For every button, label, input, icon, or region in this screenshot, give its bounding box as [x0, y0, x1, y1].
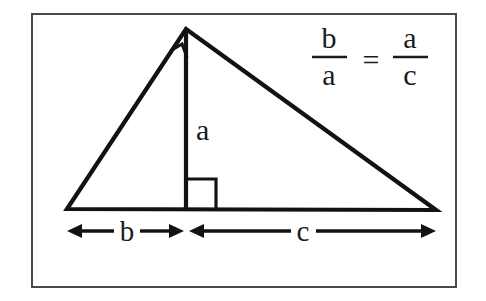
geometry-diagram: a b c b a = a c	[0, 0, 486, 301]
formula-left-denominator: a	[322, 58, 335, 91]
formula-right-numerator: a	[403, 21, 416, 54]
label-right-segment: c	[297, 215, 310, 247]
formula-left-numerator: b	[322, 21, 337, 54]
formula-right-denominator: c	[403, 58, 416, 91]
figure-canvas: a b c b a = a c	[0, 0, 486, 301]
figure-frame	[32, 14, 456, 287]
formula-equals-sign: =	[363, 43, 380, 76]
label-left-segment: b	[120, 215, 135, 247]
label-altitude: a	[196, 113, 209, 146]
